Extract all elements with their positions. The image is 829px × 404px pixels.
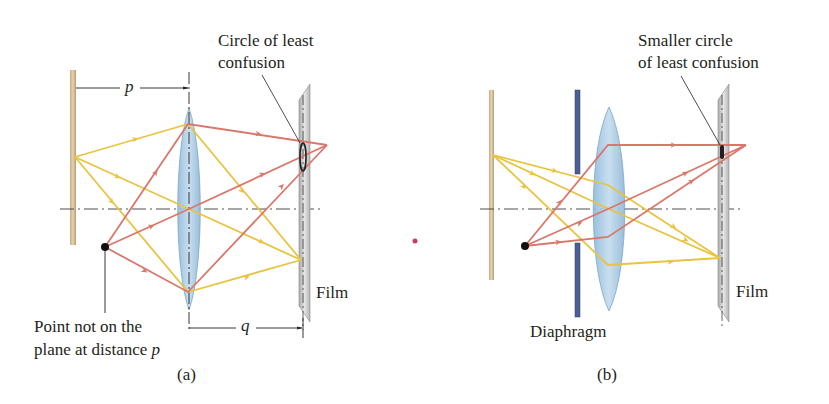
- callout-leader-a: [262, 75, 300, 143]
- film-plate: [299, 84, 310, 322]
- red-rays-b: [525, 145, 746, 246]
- callout-a-line2: confusion: [218, 53, 286, 72]
- smaller-circle-of-least-confusion: [720, 145, 724, 159]
- callout-b-line2: of least confusion: [638, 53, 759, 72]
- film-label-a: Film: [316, 283, 348, 302]
- point-label-line1: Point not on the: [34, 317, 142, 336]
- panel-b: Smaller circle of least confusion Film D…: [480, 31, 768, 384]
- point-label-line2-text: plane at distance: [34, 340, 152, 359]
- q-label: q: [241, 316, 250, 335]
- diaphragm-label: Diaphragm: [530, 322, 606, 341]
- off-plane-point: [101, 243, 109, 251]
- diaphragm-bottom: [575, 243, 580, 317]
- optics-figure: p q Circle of least confusion Film Point…: [0, 0, 829, 404]
- separator-dot: [413, 239, 418, 244]
- off-plane-point-b: [521, 242, 529, 250]
- object-plane-wall-b: [489, 90, 494, 280]
- diaphragm-top: [575, 90, 580, 174]
- point-label-line2: plane at distance p: [34, 340, 160, 359]
- caption-a: (a): [177, 365, 196, 384]
- panel-a: p q Circle of least confusion Film Point…: [34, 31, 348, 384]
- callout-a-line1: Circle of least: [218, 31, 314, 50]
- red-rays: [105, 124, 327, 292]
- callout-leader-b: [681, 76, 720, 145]
- point-label-line2-var: p: [151, 340, 161, 359]
- red-arrowheads: [138, 133, 282, 271]
- film-plate-b: [718, 84, 729, 322]
- caption-b: (b): [597, 365, 617, 384]
- callout-b-line1: Smaller circle: [638, 31, 733, 50]
- film-label-b: Film: [736, 282, 768, 301]
- p-label: p: [124, 77, 134, 96]
